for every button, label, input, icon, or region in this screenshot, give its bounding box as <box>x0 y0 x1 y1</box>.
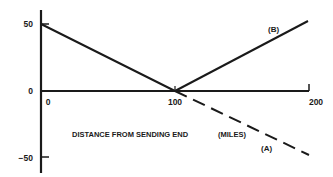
series-b-label: (B) <box>268 25 279 34</box>
y-label-50: 50 <box>24 19 34 29</box>
y-label-neg50: −50 <box>19 153 34 163</box>
line-chart: 50 0 −50 0 100 200 DISTANCE FROM SENDING… <box>0 0 333 177</box>
series-a-line <box>175 91 309 155</box>
x-label-100: 100 <box>168 97 182 107</box>
series-base-line <box>41 24 175 91</box>
x-axis-unit: (MILES) <box>218 130 246 139</box>
x-axis-title: DISTANCE FROM SENDING END <box>72 130 189 139</box>
series-a-label: (A) <box>261 144 272 153</box>
series-b-line <box>175 21 308 91</box>
y-label-0: 0 <box>28 86 33 96</box>
x-label-0: 0 <box>46 97 51 107</box>
x-label-200: 200 <box>309 97 323 107</box>
